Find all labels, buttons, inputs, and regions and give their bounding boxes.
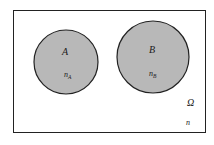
set-b-circle — [117, 21, 189, 93]
universe-label: Ω — [187, 97, 194, 108]
set-b-label: B — [149, 44, 155, 55]
venn-diagram: A nA B nB Ω n — [0, 0, 214, 145]
universe-count: n — [186, 118, 190, 127]
set-a-label: A — [61, 46, 69, 57]
set-a-circle — [34, 30, 98, 94]
